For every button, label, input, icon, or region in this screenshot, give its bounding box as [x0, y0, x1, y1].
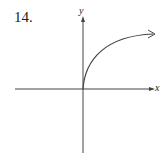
graph [0, 0, 166, 166]
x-axis-arrow-icon [149, 87, 155, 91]
x-axis [15, 87, 155, 91]
function-curve [83, 34, 153, 89]
y-axis-arrow-icon [81, 16, 85, 22]
